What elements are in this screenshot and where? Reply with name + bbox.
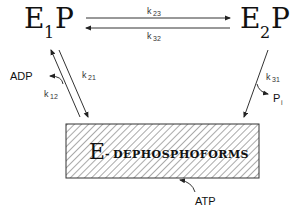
e2p-sub: 2 — [260, 23, 270, 42]
pi-release: P i — [257, 84, 283, 106]
arrow-k31: k 31 — [244, 50, 280, 117]
arrow-k32: k 32 — [86, 28, 230, 42]
adp-label: ADP — [10, 70, 33, 82]
svg-text:12: 12 — [50, 93, 58, 100]
box-text: DEPHOSPHOFORMS — [113, 148, 249, 161]
arrow-k12: k 12 — [44, 50, 80, 117]
atp-label: ATP — [195, 195, 216, 207]
box-dash: - — [105, 148, 110, 161]
svg-text:k: k — [147, 31, 152, 41]
svg-text:k: k — [44, 89, 49, 99]
state-e1p: E 1 P — [24, 2, 74, 42]
pi-sub: i — [281, 99, 283, 106]
svg-text:23: 23 — [153, 10, 161, 17]
svg-text:21: 21 — [88, 74, 96, 81]
arrow-k23: k 23 — [86, 6, 230, 18]
reaction-scheme-diagram: E 1 P E 2 P k 23 k 32 k 12 k 21 ADP k 3 — [0, 0, 300, 214]
svg-text:k: k — [266, 72, 271, 82]
box-e: E — [89, 139, 105, 164]
e2p-e: E — [240, 2, 260, 35]
svg-text:k: k — [82, 70, 87, 80]
e2p-p: P — [271, 2, 290, 35]
state-e2p: E 2 P — [240, 2, 290, 42]
arrow-k21: k 21 — [59, 50, 96, 117]
svg-text:k: k — [147, 6, 152, 16]
pi-label: P — [273, 92, 280, 104]
svg-text:31: 31 — [272, 76, 280, 83]
atp-binding: ATP — [180, 180, 216, 207]
e1p-sub: 1 — [44, 23, 54, 42]
adp-release: ADP — [10, 70, 63, 84]
e1p-p: P — [55, 2, 74, 35]
svg-text:32: 32 — [153, 35, 161, 42]
e1p-e: E — [24, 2, 44, 35]
dephosphoforms-box: E - DEPHOSPHOFORMS — [66, 124, 259, 178]
